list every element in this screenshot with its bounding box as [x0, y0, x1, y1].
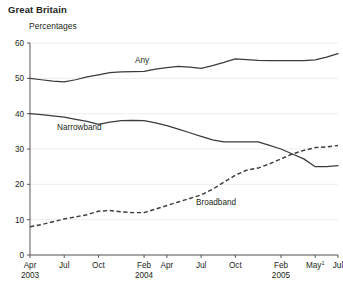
x-tick-year-label: 2005 [272, 271, 291, 280]
x-tick-label: May1 [306, 260, 324, 271]
y-axis-tick-labels: 0102030405060 [15, 39, 25, 260]
x-tick-label: Feb [274, 261, 289, 270]
series-line-any [30, 54, 338, 82]
x-tick-label: Oct [92, 261, 105, 270]
y-tick-label: 50 [15, 74, 25, 83]
y-tick-label: 30 [15, 145, 25, 154]
x-tick-footnote-marker: 1 [321, 260, 324, 266]
y-tick-label: 40 [15, 110, 25, 119]
x-tick-year-label: 2003 [21, 271, 40, 280]
series-label-broadband: Broadband [196, 198, 237, 207]
x-tick-label: Feb [137, 261, 152, 270]
data-series [30, 54, 338, 227]
series-line-broadband [30, 145, 338, 226]
x-axis-tick-labels: Apr2003JulOctFeb2004AprJulOctFeb2005May1… [21, 260, 343, 281]
x-tick-label: Apr [24, 261, 37, 270]
x-tick-label: Oct [229, 261, 242, 270]
series-label-narrowband: Narrowband [57, 123, 102, 132]
x-tick-label: Jul [59, 261, 70, 270]
series-line-narrowband [30, 114, 338, 167]
x-tick-label: Apr [161, 261, 174, 270]
x-tick-label: Jul [196, 261, 207, 270]
y-tick-label: 60 [15, 39, 25, 48]
y-tick-label: 10 [15, 216, 25, 225]
x-tick-year-label: 2004 [135, 271, 154, 280]
y-tick-label: 20 [15, 180, 25, 189]
series-label-any: Any [135, 56, 150, 65]
gridlines [27, 43, 338, 255]
chart-container: Great Britain Percentages 0102030405060 … [0, 0, 343, 281]
x-tick-label: Jul [333, 261, 343, 270]
line-chart-plot: 0102030405060 Apr2003JulOctFeb2004AprJul… [0, 0, 343, 281]
y-tick-label: 0 [19, 251, 24, 260]
